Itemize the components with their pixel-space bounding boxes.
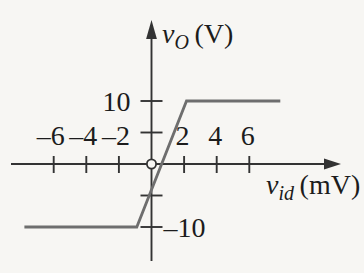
x-tick-label: 4: [208, 120, 222, 151]
y-tick-label: –10: [163, 212, 206, 243]
x-tick-label: 6: [241, 120, 255, 151]
x-tick-label: –2: [101, 120, 130, 151]
x-tick-label: –4: [68, 120, 97, 151]
origin-marker: [147, 159, 156, 168]
y-tick-label: 10: [103, 86, 131, 117]
figure-canvas: –6–4–224610–10vO (V)vid (mV): [0, 0, 364, 273]
opamp-transfer-characteristic-chart: –6–4–224610–10vO (V)vid (mV): [0, 0, 364, 273]
y-axis-title: vO (V): [162, 18, 233, 53]
x-tick-label: –6: [36, 120, 65, 151]
